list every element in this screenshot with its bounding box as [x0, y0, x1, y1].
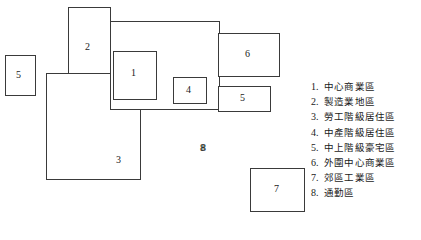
zone-5-left-label: 5 — [16, 70, 21, 80]
legend-item-number: 2. — [311, 94, 324, 109]
zone-4-label: 4 — [186, 85, 191, 95]
legend-item-number: 3. — [311, 109, 324, 124]
legend-item: 5.中上階級豪宅區 — [311, 140, 421, 155]
legend-item-number: 6. — [311, 155, 324, 170]
legend-item-label: 外圍中心商業區 — [324, 155, 395, 170]
legend-item-number: 5. — [311, 140, 324, 155]
legend-item-number: 8. — [311, 185, 324, 200]
legend-item-number: 4. — [311, 125, 324, 140]
zone-7-label: 7 — [274, 184, 279, 194]
legend-item: 8.通勤區 — [311, 185, 421, 200]
legend-item-label: 中產階級居住區 — [324, 125, 395, 140]
label-8: 8 — [201, 143, 206, 153]
legend-list: 1.中心商業區2.製造業地區3.勞工階級居住區4.中產階級居住區5.中上階級豪宅… — [311, 79, 421, 201]
legend-item-label: 中上階級豪宅區 — [324, 140, 395, 155]
legend-item-label: 製造業地區 — [324, 94, 375, 109]
legend-item: 6.外圍中心商業區 — [311, 155, 421, 170]
legend-item-label: 郊區工業區 — [324, 170, 375, 185]
zone-1-label: 1 — [131, 68, 136, 78]
legend-item-number: 1. — [311, 79, 324, 94]
legend-item-number: 7. — [311, 170, 324, 185]
legend-item: 2.製造業地區 — [311, 94, 421, 109]
legend-item: 7.郊區工業區 — [311, 170, 421, 185]
zone-3-label: 3 — [116, 155, 121, 165]
legend-item-label: 中心商業區 — [324, 79, 375, 94]
zone-6-label: 6 — [245, 49, 250, 59]
zone-5-right-label: 5 — [240, 93, 245, 103]
zone-2-label: 2 — [85, 42, 90, 52]
legend-item: 1.中心商業區 — [311, 79, 421, 94]
legend-item-label: 通勤區 — [324, 185, 355, 200]
legend-item: 3.勞工階級居住區 — [311, 109, 421, 124]
legend-item-label: 勞工階級居住區 — [324, 109, 395, 124]
legend-item: 4.中產階級居住區 — [311, 125, 421, 140]
